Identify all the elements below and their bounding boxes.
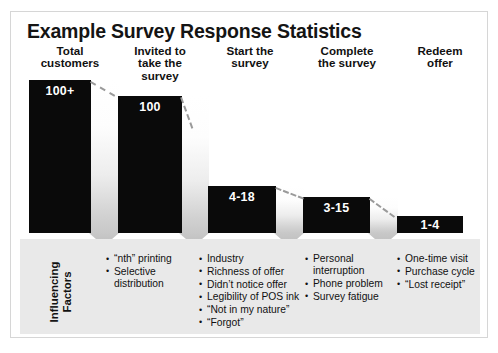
list-item: Personal interruption <box>305 253 393 278</box>
column-header-invited: Invited to take the survey <box>117 45 203 82</box>
influencing-factors-label: Influencing Factors <box>22 250 100 334</box>
list-item: “Lost receipt” <box>397 279 485 291</box>
bar-value-label: 100+ <box>29 84 91 98</box>
bar-invited: 100 <box>118 96 182 233</box>
list-item: Legibility of POS ink <box>199 291 307 303</box>
column-header-line: the survey <box>301 57 393 69</box>
bar-value-label: 4-18 <box>208 190 276 204</box>
influencing-factors-label-line2: Factors <box>61 271 73 312</box>
factors-list-start-survey: Industry Richness of offer Didn’t notice… <box>199 253 307 330</box>
influencing-factors-label-line1: Influencing <box>48 262 60 323</box>
column-header-redeem-offer: Redeem offer <box>397 45 483 70</box>
list-item: “Forgot” <box>199 317 307 329</box>
bar-start-survey: 4-18 <box>208 186 276 233</box>
column-header-line: survey <box>207 57 293 69</box>
list-item: “nth” printing <box>106 253 198 265</box>
chart-card: Example Survey Response Statistics Total… <box>10 11 488 338</box>
bar-complete-survey: 3-15 <box>303 197 370 233</box>
column-header-line: take the <box>117 57 203 69</box>
bar-value-label: 100 <box>118 100 182 114</box>
column-header-line: customers <box>29 57 111 69</box>
funnel-wedge-1 <box>89 80 119 233</box>
factors-list-redeem-offer: One-time visit Purchase cycle “Lost rece… <box>397 253 485 291</box>
list-item: Phone problem <box>305 278 393 290</box>
column-header-total-customers: Total customers <box>29 45 111 70</box>
column-header-complete-survey: Complete the survey <box>301 45 393 70</box>
funnel-wedge-2 <box>179 96 209 233</box>
list-item: Purchase cycle <box>397 266 485 278</box>
list-item: One-time visit <box>397 253 485 265</box>
factors-list-invited: “nth” printing Selective distribution <box>106 253 198 291</box>
column-header-line: survey <box>117 70 203 82</box>
factors-list-complete-survey: Personal interruption Phone problem Surv… <box>305 253 393 304</box>
page-title: Example Survey Response Statistics <box>27 20 362 43</box>
bar-value-label: 3-15 <box>303 201 370 215</box>
column-header-start-survey: Start the survey <box>207 45 293 70</box>
list-item: Richness of offer <box>199 266 307 278</box>
list-item: Didn’t notice offer <box>199 279 307 291</box>
column-header-line: offer <box>397 57 483 69</box>
bar-value-label: 1-4 <box>397 218 463 232</box>
bar-redeem-offer: 1-4 <box>397 216 463 233</box>
list-item: Industry <box>199 253 307 265</box>
list-item: Survey fatigue <box>305 291 393 303</box>
list-item: “Not in my nature” <box>199 304 307 316</box>
bar-total-customers: 100+ <box>29 80 91 233</box>
list-item: Selective distribution <box>106 266 198 291</box>
